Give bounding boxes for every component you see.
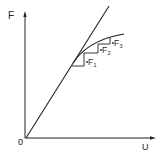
step-label-1: F 1 [88, 57, 97, 68]
svg-text:2: 2 [108, 50, 111, 56]
svg-text:3: 3 [120, 43, 123, 49]
svg-text:F: F [114, 38, 119, 48]
x-axis-label: U [142, 142, 149, 152]
y-axis-arrow-icon [23, 11, 26, 17]
y-axis [23, 11, 26, 138]
svg-text:1: 1 [94, 62, 97, 68]
step-label-2: F 2 [102, 45, 111, 56]
x-axis-arrow-icon [150, 136, 156, 139]
origin-label: 0 [18, 137, 23, 147]
force-displacement-diagram: F U 0 F 1 F 2 F 3 [0, 0, 167, 158]
linear-line [26, 6, 109, 138]
x-axis [25, 136, 156, 139]
step-label-3: F 3 [114, 38, 123, 49]
svg-text:F: F [88, 57, 93, 67]
y-axis-label: F [8, 10, 14, 21]
svg-text:F: F [102, 45, 107, 55]
